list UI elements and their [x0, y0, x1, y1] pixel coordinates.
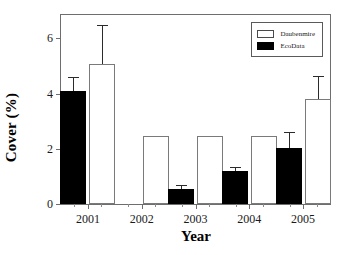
bar — [89, 64, 115, 204]
x-minor-tick-mark — [182, 204, 183, 207]
bar — [197, 136, 223, 204]
plot-area: 0246 20012002200320042005 DaubenmireEcoD… — [60, 14, 331, 205]
y-tick-mark — [56, 204, 61, 205]
x-tick-label: 2005 — [291, 212, 315, 227]
error-bar-cap — [176, 185, 187, 186]
y-tick-label: 6 — [47, 31, 53, 46]
x-tick-mark — [303, 204, 304, 209]
error-bar-stem — [289, 132, 290, 148]
legend-swatch-icon — [257, 42, 274, 50]
error-bar-cap — [230, 167, 241, 168]
x-minor-tick-mark — [74, 204, 75, 207]
y-tick-mark — [56, 38, 61, 39]
y-axis-title: Cover (%) — [0, 0, 22, 255]
error-bar-stem — [318, 76, 319, 99]
x-minor-tick-mark — [236, 204, 237, 207]
error-bar-cap — [284, 132, 295, 133]
chart-legend: DaubenmireEcoData — [251, 22, 323, 57]
bar — [60, 91, 86, 204]
legend-item: Daubenmire — [257, 28, 315, 39]
x-minor-tick-mark — [263, 204, 264, 207]
legend-item: EcoData — [257, 40, 315, 51]
x-minor-tick-mark — [128, 204, 129, 207]
x-tick-mark — [196, 204, 197, 209]
bar — [168, 189, 194, 204]
x-minor-tick-mark — [209, 204, 210, 207]
x-tick-label: 2003 — [184, 212, 208, 227]
x-tick-mark — [249, 204, 250, 209]
bar — [276, 148, 302, 204]
x-tick-label: 2001 — [76, 212, 100, 227]
error-bar-cap — [68, 77, 79, 78]
x-minor-tick-mark — [101, 204, 102, 207]
legend-item-label: Daubenmire — [280, 30, 315, 38]
error-bar-stem — [73, 77, 74, 91]
x-tick-mark — [142, 204, 143, 209]
error-bar-cap — [97, 25, 108, 26]
y-tick-label: 0 — [47, 197, 53, 212]
legend-item-label: EcoData — [280, 42, 304, 50]
x-minor-tick-mark — [155, 204, 156, 207]
x-tick-label: 2002 — [130, 212, 154, 227]
legend-swatch-icon — [257, 30, 274, 38]
bar — [251, 136, 277, 204]
bar — [305, 99, 331, 204]
y-tick-label: 4 — [47, 86, 53, 101]
error-bar-stem — [102, 25, 103, 64]
x-tick-label: 2004 — [237, 212, 261, 227]
x-axis-title: Year — [60, 228, 332, 245]
y-tick-label: 2 — [47, 141, 53, 156]
error-bar-cap — [313, 76, 324, 77]
x-minor-tick-mark — [317, 204, 318, 207]
x-minor-tick-mark — [290, 204, 291, 207]
bar — [143, 136, 169, 204]
bar — [222, 171, 248, 204]
x-tick-mark — [88, 204, 89, 209]
chart-figure: Cover (%) Year 0246 20012002200320042005… — [0, 0, 346, 255]
